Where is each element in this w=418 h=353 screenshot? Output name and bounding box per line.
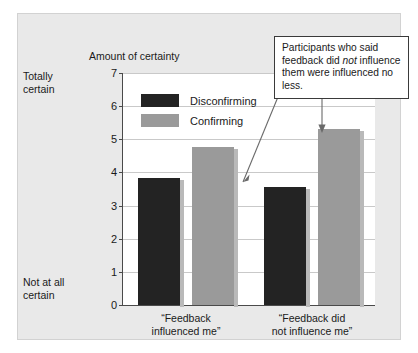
- y-tick-label: 2: [111, 233, 117, 244]
- y-tick-mark: [119, 206, 123, 207]
- bar-shadow: [360, 131, 364, 307]
- y-tick-mark: [119, 305, 123, 306]
- bar-disconfirming: [264, 187, 306, 305]
- y-tick-mark: [119, 272, 123, 273]
- y-tick-label: 1: [111, 266, 117, 277]
- y-tick-label: 0: [111, 300, 117, 311]
- y-tick-label: 5: [111, 134, 117, 145]
- x-label-line: not influence me”: [272, 325, 353, 337]
- legend-item-confirming: Confirming: [141, 114, 257, 127]
- y-axis-high-label-line1: Totally: [23, 70, 53, 82]
- plot-area: 01234567 “Feedbackinfluenced me”“Feedbac…: [122, 73, 375, 306]
- legend-label-confirming: Confirming: [190, 115, 243, 127]
- bar-disconfirming: [138, 178, 180, 305]
- y-axis-low-label-line2: certain: [23, 289, 55, 301]
- legend-label-disconfirming: Disconfirming: [190, 95, 257, 107]
- callout-emphasis: not: [343, 55, 357, 66]
- bar-confirming: [192, 147, 234, 305]
- x-label-line: “Feedback did: [279, 312, 346, 324]
- chart-axis-title: Amount of certainty: [89, 50, 179, 62]
- y-tick-mark: [119, 106, 123, 107]
- y-axis-low-label: Not at all certain: [23, 276, 64, 301]
- y-tick-mark: [119, 172, 123, 173]
- y-axis-high-label: Totally certain: [23, 70, 55, 95]
- legend-swatch-disconfirming: [141, 94, 179, 107]
- y-axis-high-label-line2: certain: [23, 83, 55, 95]
- y-axis-low-label-line1: Not at all: [23, 276, 64, 288]
- legend-swatch-confirming: [141, 114, 179, 127]
- y-tick-label: 4: [111, 167, 117, 178]
- x-label-line: influenced me”: [152, 325, 221, 337]
- bar-confirming: [318, 129, 360, 305]
- y-tick-label: 6: [111, 101, 117, 112]
- x-label-line: “Feedback: [161, 312, 211, 324]
- callout-annotation: Participants who said feedback did not i…: [274, 36, 409, 99]
- legend-item-disconfirming: Disconfirming: [141, 94, 257, 107]
- x-axis-label: “Feedbackinfluenced me”: [152, 312, 221, 338]
- bar-shadow: [234, 149, 238, 307]
- y-tick-mark: [119, 139, 123, 140]
- y-tick-label: 3: [111, 200, 117, 211]
- bar-shadow: [180, 180, 184, 307]
- y-tick-mark: [119, 239, 123, 240]
- chart-figure: Amount of certainty Totally certain Not …: [17, 13, 401, 340]
- bar-shadow: [306, 189, 310, 307]
- y-tick-mark: [119, 73, 123, 74]
- x-axis-label: “Feedback didnot influence me”: [272, 312, 353, 338]
- y-tick-label: 7: [111, 68, 117, 79]
- chart-legend: Disconfirming Confirming: [141, 94, 257, 134]
